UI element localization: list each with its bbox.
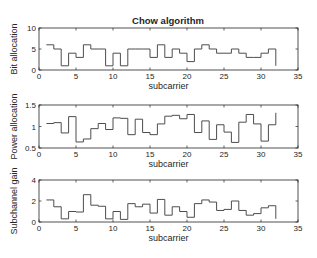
x-tick-label: 25 <box>220 150 229 159</box>
x-tick-label: 5 <box>74 72 79 81</box>
x-axis-label: subcarrier <box>148 159 188 169</box>
y-tick-label: 0 <box>32 66 37 75</box>
x-tick-label: 15 <box>146 72 155 81</box>
subplot-3: 05101520253035024subcarrierSubchannel ga… <box>9 167 303 243</box>
y-axis-label: Bit allocation <box>9 23 19 74</box>
y-axis-label: Power allocation <box>9 93 19 159</box>
y-tick-label: 1.5 <box>25 101 37 110</box>
axes-box <box>39 180 298 222</box>
x-tick-label: 20 <box>183 72 192 81</box>
y-tick-label: 4 <box>32 176 37 185</box>
y-axis-label: Subchannel gain <box>9 167 19 234</box>
x-tick-label: 15 <box>146 224 155 233</box>
x-tick-label: 35 <box>294 72 303 81</box>
x-tick-label: 25 <box>220 224 229 233</box>
x-axis-label: subcarrier <box>148 81 188 91</box>
y-tick-label: 1 <box>32 123 37 132</box>
subplot-1: 051015202530350510subcarrierBit allocati… <box>9 23 303 91</box>
figure: Chow algorithm 051015202530350510subcarr… <box>0 0 317 258</box>
x-tick-label: 30 <box>257 150 266 159</box>
y-tick-label: 10 <box>27 24 36 33</box>
y-tick-label: 5 <box>32 45 37 54</box>
chow-algorithm-figure: Chow algorithm 051015202530350510subcarr… <box>0 0 317 258</box>
x-tick-label: 0 <box>37 150 42 159</box>
x-tick-label: 35 <box>294 150 303 159</box>
figure-title: Chow algorithm <box>132 15 204 26</box>
y-tick-label: 2 <box>32 197 37 206</box>
x-tick-label: 0 <box>37 224 42 233</box>
x-tick-label: 0 <box>37 72 42 81</box>
x-tick-label: 30 <box>257 72 266 81</box>
x-tick-label: 10 <box>109 72 118 81</box>
x-tick-label: 15 <box>146 150 155 159</box>
x-tick-label: 20 <box>183 150 192 159</box>
axes-box <box>39 28 298 70</box>
y-tick-label: 0.5 <box>25 144 37 153</box>
x-axis-label: subcarrier <box>148 233 188 243</box>
x-tick-label: 5 <box>74 150 79 159</box>
y-tick-label: 0 <box>32 218 37 227</box>
x-tick-label: 10 <box>109 224 118 233</box>
x-tick-label: 20 <box>183 224 192 233</box>
x-tick-label: 5 <box>74 224 79 233</box>
x-tick-label: 25 <box>220 72 229 81</box>
x-tick-label: 35 <box>294 224 303 233</box>
subplot-2: 051015202530350.511.5subcarrierPower all… <box>9 93 303 169</box>
x-tick-label: 30 <box>257 224 266 233</box>
subplots: 051015202530350510subcarrierBit allocati… <box>9 23 303 243</box>
x-tick-label: 10 <box>109 150 118 159</box>
